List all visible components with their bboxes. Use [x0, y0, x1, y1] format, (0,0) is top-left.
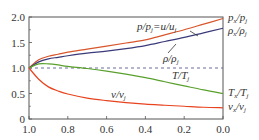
x-tick-label: 0.4 — [139, 123, 153, 135]
x-tick-label: 0.2 — [177, 123, 191, 135]
end-label-vx: vx/vj — [228, 100, 246, 114]
label-density: ρ/ρj — [162, 52, 179, 66]
label-pressure-velocity: p/pj=u/uj — [136, 20, 177, 34]
y-tick-label: 1.0 — [11, 62, 25, 74]
x-tick-label: 0.8 — [61, 123, 75, 135]
line-chart: 00.51.01.52.0 1.00.80.60.40.20.0 p/pj=u/… — [0, 0, 259, 140]
label-temperature: T/Tj — [172, 69, 189, 83]
series-line-1 — [29, 28, 223, 68]
y-tick-label: 0.5 — [11, 88, 25, 100]
x-tick-label: 0.6 — [100, 123, 114, 135]
y-tick-label: 1.5 — [11, 37, 25, 49]
x-tick-label: 1.0 — [22, 123, 36, 135]
x-tick-label: 0.0 — [216, 123, 230, 135]
end-label-px: px/pj — [227, 11, 247, 25]
series-group — [29, 19, 223, 108]
y-tick-label: 2.0 — [11, 11, 25, 23]
end-label-rhox: ρx/ρj — [227, 24, 247, 38]
series-line-0 — [29, 19, 223, 68]
end-label-Tx: Tx/Tj — [228, 86, 248, 100]
label-transverse-velocity: v/vj — [111, 88, 126, 102]
